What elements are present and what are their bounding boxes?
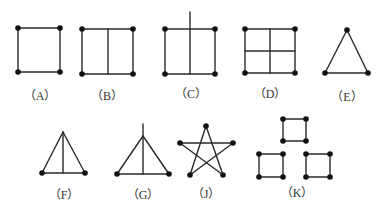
vertex-dot	[303, 138, 309, 144]
edge-line	[180, 143, 223, 175]
edge-line	[347, 30, 368, 73]
vertex-dot	[57, 69, 63, 75]
vertex-dot	[82, 170, 88, 176]
figure-E: （E）	[322, 27, 371, 104]
vertex-dot	[162, 26, 168, 32]
vertex-dot	[162, 71, 168, 77]
vertex-dot	[327, 174, 333, 180]
vertex-dot	[187, 172, 193, 178]
vertex-dot	[303, 174, 309, 180]
edge-line	[190, 126, 206, 175]
vertex-dot	[292, 26, 298, 32]
vertex-dot	[256, 151, 262, 157]
vertex-dot	[114, 171, 120, 177]
figure-G: （G）	[114, 124, 172, 202]
edge-line	[117, 136, 143, 174]
figure-label: （J）	[192, 187, 221, 201]
vertex-dot	[212, 26, 218, 32]
vertex-dot	[130, 71, 136, 77]
edge-line	[143, 136, 169, 174]
vertex-dot	[242, 26, 248, 32]
edge-line	[42, 132, 63, 173]
vertex-dot	[203, 123, 209, 129]
vertex-dot	[220, 172, 226, 178]
figure-B: （B）	[79, 26, 136, 103]
figure-label: （A）	[24, 89, 57, 103]
figure-K: （K）	[256, 116, 333, 200]
vertex-dot	[303, 116, 309, 122]
figure-F: （F）	[39, 132, 88, 202]
vertex-dot	[256, 174, 262, 180]
figure-label: （D）	[254, 87, 287, 101]
vertex-dot	[212, 71, 218, 77]
vertex-dot	[303, 151, 309, 157]
figure-C: （C）	[162, 12, 218, 101]
vertex-dot	[344, 27, 350, 33]
vertex-dot	[15, 25, 21, 31]
vertex-dot	[292, 70, 298, 76]
vertex-dot	[15, 69, 21, 75]
figure-A: （A）	[15, 25, 63, 103]
edge-line	[63, 132, 85, 173]
vertex-dot	[280, 151, 286, 157]
vertex-dot	[230, 140, 236, 146]
vertex-dot	[322, 70, 328, 76]
vertex-dot	[130, 26, 136, 32]
figure-D: （D）	[242, 26, 298, 101]
vertex-dot	[280, 116, 286, 122]
vertex-dot	[166, 171, 172, 177]
vertex-dot	[280, 174, 286, 180]
edge-line	[190, 143, 233, 175]
vertex-dot	[327, 151, 333, 157]
edge-line	[206, 126, 223, 175]
vertex-dot	[365, 70, 371, 76]
figure-label: （C）	[175, 87, 207, 101]
figure-J: （J）	[177, 123, 236, 201]
figure-label: （B）	[91, 89, 123, 103]
figure-label: （E）	[331, 90, 362, 104]
figure-label: （F）	[49, 188, 80, 202]
vertex-dot	[39, 170, 45, 176]
vertex-dot	[79, 71, 85, 77]
vertex-dot	[79, 26, 85, 32]
figure-label: （G）	[127, 188, 160, 202]
vertex-dot	[242, 70, 248, 76]
figure-label: （K）	[281, 186, 314, 200]
edge-line	[325, 30, 347, 73]
graph-figures-diagram: （A） （B） （C） （D） （E） （F） （G） （J） （K）	[0, 0, 379, 207]
vertex-dot	[177, 140, 183, 146]
vertex-dot	[280, 138, 286, 144]
vertex-dot	[57, 25, 63, 31]
